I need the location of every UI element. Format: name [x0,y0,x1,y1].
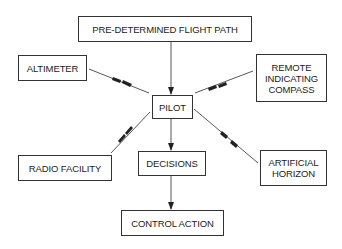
node-label: ARTIFICIAL HORIZON [266,157,322,179]
node-label: RADIO FACILITY [29,163,102,174]
node-label: CONTROL ACTION [131,218,214,229]
node-pilot: PILOT [152,95,193,119]
edge-radio-pilot [111,112,150,153]
node-label: DECISIONS [146,158,197,169]
node-altimeter: ALTIMETER [18,55,87,81]
edge-compass-pilot [195,71,253,93]
node-control-action: CONTROL ACTION [121,210,224,236]
node-label: PILOT [159,102,186,113]
node-pre-determined-flight-path: PRE-DETERMINED FLIGHT PATH [78,16,252,42]
node-remote-indicating-compass: REMOTE INDICATING COMPASS [256,54,327,102]
node-label: REMOTE INDICATING COMPASS [262,62,322,95]
node-radio-facility: RADIO FACILITY [18,155,112,181]
node-artificial-horizon: ARTIFICIAL HORIZON [260,150,327,186]
node-label: ALTIMETER [27,63,79,74]
node-decisions: DECISIONS [138,151,206,176]
node-label: PRE-DETERMINED FLIGHT PATH [92,24,238,35]
